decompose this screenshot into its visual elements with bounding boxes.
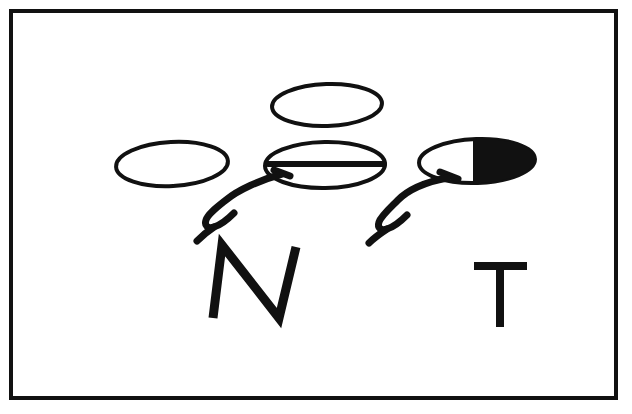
border-frame [11, 11, 616, 398]
center-ellipse [265, 141, 386, 189]
hand-drawn-diagram: N T [0, 0, 632, 414]
figure-canvas: N T [0, 0, 632, 414]
